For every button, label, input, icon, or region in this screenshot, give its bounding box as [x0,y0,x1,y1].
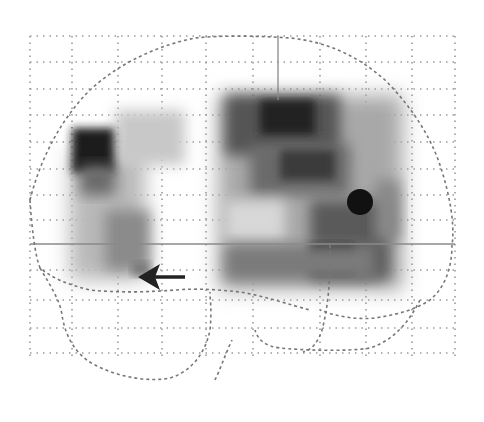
brain-projection-figure [0,0,484,422]
peak-marker-dot [347,189,373,215]
